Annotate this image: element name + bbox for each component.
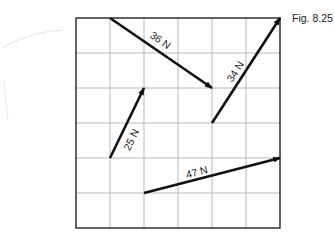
bleed-through-mark bbox=[4, 80, 8, 120]
bleed-through-mark bbox=[2, 30, 62, 48]
grid-lines bbox=[76, 18, 280, 228]
figure-caption: Fig. 8.25 bbox=[292, 12, 333, 24]
vector-grid-figure: 36 N34 N25 N47 N bbox=[0, 0, 334, 241]
vector-magnitude-label: 34 N bbox=[224, 59, 246, 84]
force-vectors: 36 N34 N25 N47 N bbox=[110, 18, 280, 193]
